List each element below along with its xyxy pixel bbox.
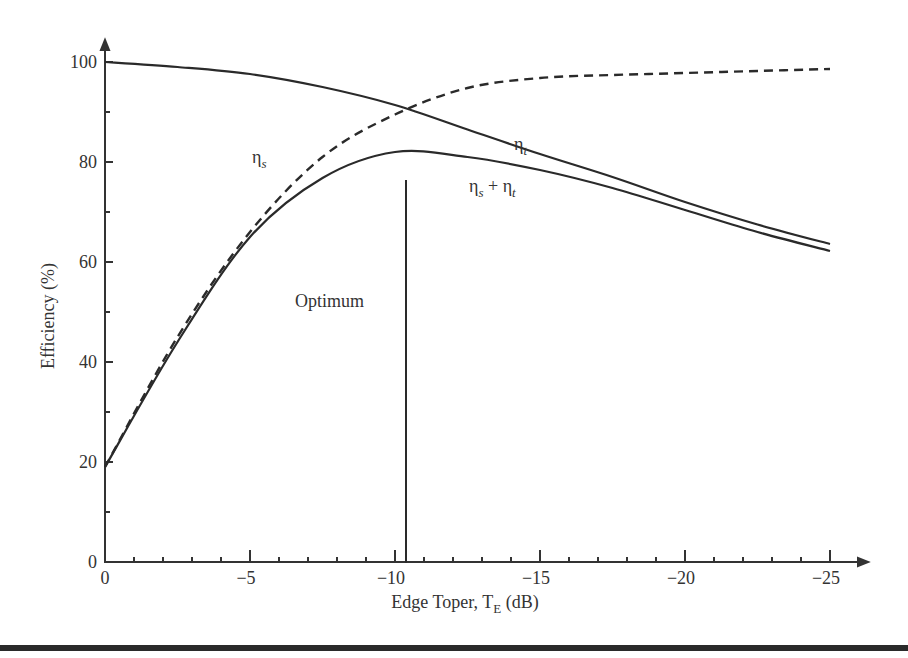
x-tick-label: −25 [812, 568, 840, 588]
y-axis-ticks: 020406080100 [70, 52, 113, 572]
y-tick-label: 80 [79, 152, 97, 172]
eta-t-curve [105, 62, 830, 244]
optimum-label: Optimum [295, 291, 364, 311]
efficiency-chart: 020406080100 0−5−10−15−20−25 Efficiency … [0, 0, 908, 658]
y-tick-label: 40 [79, 352, 97, 372]
x-tick-label: −20 [667, 568, 695, 588]
y-axis-title: Efficiency (%) [38, 263, 59, 369]
x-axis-ticks: 0−5−10−15−20−25 [101, 550, 841, 588]
y-tick-label: 0 [88, 552, 97, 572]
x-tick-label: −5 [236, 568, 255, 588]
x-tick-label: −15 [522, 568, 550, 588]
x-tick-label: 0 [101, 568, 110, 588]
eta-s-label: ηs [252, 147, 266, 171]
x-tick-label: −10 [377, 568, 405, 588]
eta-s-plus-eta-t-label: ηs + ηt [469, 176, 516, 200]
y-tick-label: 60 [79, 252, 97, 272]
x-axis-title: Edge Toper, TE (dB) [391, 592, 538, 616]
eta-t-label: ηt [514, 134, 527, 158]
combined-efficiency-curve [105, 151, 830, 467]
y-tick-label: 20 [79, 452, 97, 472]
y-tick-label: 100 [70, 52, 97, 72]
bottom-rule [0, 645, 908, 651]
